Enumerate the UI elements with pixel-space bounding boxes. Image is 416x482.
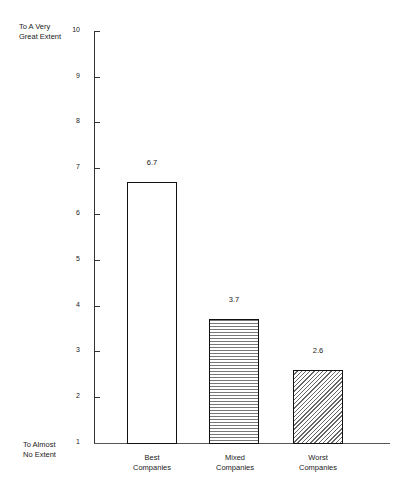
y-top-label-line1: To A Very: [19, 22, 61, 32]
y-tick: [94, 122, 100, 123]
y-tick: [94, 31, 100, 32]
cat-line: Best: [117, 453, 187, 463]
y-tick: [94, 168, 100, 169]
category-label-mixed: Mixed Companies: [200, 453, 270, 473]
cat-line: Companies: [283, 463, 353, 473]
cat-line: Companies: [117, 463, 187, 473]
category-label-best: Best Companies: [117, 453, 187, 473]
y-tick-label: 2: [60, 392, 80, 399]
y-tick-label: 7: [60, 163, 80, 170]
cat-line: Worst: [283, 453, 353, 463]
bar: [209, 319, 259, 444]
y-tick-label: 8: [60, 117, 80, 124]
y-tick-label: 10: [60, 26, 80, 33]
y-tick-label: 3: [60, 346, 80, 353]
cat-line: Mixed: [200, 453, 270, 463]
y-bottom-label: To Almost No Extent: [23, 440, 56, 460]
y-bottom-label-line1: To Almost: [23, 440, 56, 450]
bar-value-label: 3.7: [209, 295, 259, 304]
bar: [127, 182, 177, 444]
cat-line: Companies: [200, 463, 270, 473]
bar-value-label: 6.7: [127, 158, 177, 167]
category-label-worst: Worst Companies: [283, 453, 353, 473]
y-tick-label: 4: [60, 301, 80, 308]
y-tick: [94, 214, 100, 215]
y-tick: [94, 351, 100, 352]
y-tick: [94, 77, 100, 78]
y-tick: [94, 306, 100, 307]
y-bottom-label-line2: No Extent: [23, 450, 56, 460]
bar: [293, 370, 343, 444]
y-top-label: To A Very Great Extent: [19, 22, 61, 42]
y-top-label-line2: Great Extent: [19, 32, 61, 42]
y-tick: [94, 397, 100, 398]
y-tick-label: 1: [60, 438, 80, 445]
y-tick-label: 6: [60, 209, 80, 216]
y-tick-label: 5: [60, 255, 80, 262]
y-axis: [94, 31, 95, 443]
y-tick-label: 9: [60, 72, 80, 79]
y-tick: [94, 260, 100, 261]
bar-value-label: 2.6: [293, 346, 343, 355]
